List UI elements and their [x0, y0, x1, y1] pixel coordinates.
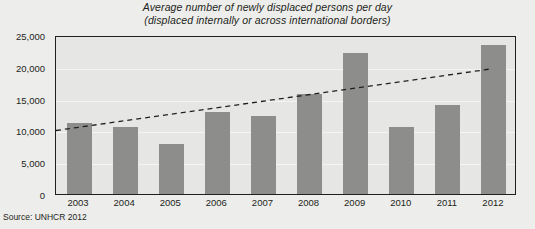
bar	[481, 45, 506, 194]
bar	[251, 116, 276, 194]
x-axis-tick-label: 2004	[101, 197, 147, 208]
source-note: Source: UNHCR 2012	[3, 212, 87, 222]
x-axis-tick-label: 2010	[378, 197, 424, 208]
x-axis-tick-label: 2006	[193, 197, 239, 208]
y-axis: 05,00010,00015,00020,00025,000	[0, 36, 50, 195]
bar	[205, 112, 230, 194]
y-axis-tick-label: 0	[0, 190, 50, 201]
x-axis-tick-label: 2003	[55, 197, 101, 208]
bar	[67, 123, 92, 194]
bar	[297, 94, 322, 194]
x-axis-tick-label: 2012	[470, 197, 516, 208]
x-axis-tick-label: 2011	[424, 197, 470, 208]
bar	[159, 144, 184, 194]
y-axis-tick-label: 5,000	[0, 158, 50, 169]
x-axis-tick-label: 2008	[286, 197, 332, 208]
chart-title-line-1: Average number of newly displaced person…	[143, 1, 392, 13]
y-axis-tick-label: 25,000	[0, 31, 50, 42]
bar	[435, 105, 460, 194]
chart-container: Average number of newly displaced person…	[0, 0, 535, 229]
bar	[389, 127, 414, 194]
y-axis-tick-label: 15,000	[0, 94, 50, 105]
y-axis-tick-label: 10,000	[0, 126, 50, 137]
plot-area	[55, 36, 516, 195]
chart-title-line-2: (displaced internally or across internat…	[0, 14, 535, 27]
bar	[113, 127, 138, 194]
x-axis-tick-label: 2005	[147, 197, 193, 208]
x-axis-tick-label: 2009	[332, 197, 378, 208]
y-axis-tick-label: 20,000	[0, 62, 50, 73]
x-axis-tick-label: 2007	[239, 197, 285, 208]
bar	[343, 53, 368, 194]
x-axis: 2003200420052006200720082009201020112012	[55, 197, 516, 211]
chart-title: Average number of newly displaced person…	[0, 1, 535, 27]
bar-series	[56, 37, 515, 194]
